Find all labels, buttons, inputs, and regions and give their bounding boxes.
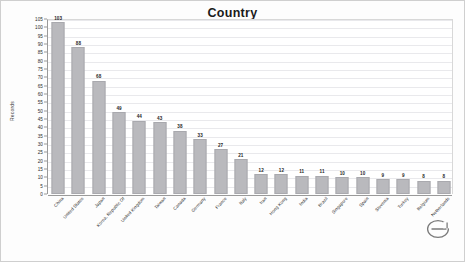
y-axis-tick-label: 60 — [38, 92, 43, 97]
x-axis-tick-label: Hong Kong — [269, 196, 288, 216]
x-axis-tick-label: Iran — [259, 196, 268, 205]
x-axis-tick-label: Netherlands — [430, 196, 451, 218]
bar-slot[interactable]: 68 — [89, 20, 109, 194]
bar[interactable] — [397, 179, 410, 194]
y-axis-tick-label: 100 — [35, 25, 43, 30]
bar-value-label: 43 — [157, 116, 162, 121]
bar[interactable] — [376, 179, 389, 194]
bar[interactable] — [72, 47, 85, 194]
bar-value-label: 12 — [279, 168, 284, 173]
x-axis-tick-label: Taiwan — [153, 196, 166, 210]
bar-slot[interactable]: 9 — [393, 20, 413, 194]
bar-value-label: 103 — [54, 16, 62, 21]
bar-value-label: 27 — [218, 143, 223, 148]
y-axis-tick-label: 65 — [38, 83, 43, 88]
bar-value-label: 12 — [258, 168, 263, 173]
y-axis-tick-label: 80 — [38, 58, 43, 63]
y-axis-tick-label: 35 — [38, 133, 43, 138]
y-axis-tick-label: 15 — [38, 167, 43, 172]
bar-slot[interactable]: 10 — [332, 20, 352, 194]
bar[interactable] — [194, 139, 207, 194]
bar-value-label: 11 — [299, 169, 304, 174]
elsevier-e-logo-icon — [425, 216, 451, 242]
bar-slot[interactable]: 27 — [210, 20, 230, 194]
bar-slot[interactable]: 44 — [129, 20, 149, 194]
y-axis-tick-label: 85 — [38, 50, 43, 55]
bar[interactable] — [255, 174, 268, 194]
bar[interactable] — [275, 174, 288, 194]
x-axis-tick-label: China — [53, 196, 65, 208]
bar-value-label: 38 — [177, 124, 182, 129]
y-axis-tick-label: 25 — [38, 150, 43, 155]
bar[interactable] — [234, 159, 247, 194]
x-axis-tick-label: France — [214, 196, 227, 210]
bar-slot[interactable]: 10 — [353, 20, 373, 194]
bar-value-label: 44 — [137, 114, 142, 119]
x-axis-tick-label: Brazil — [317, 196, 329, 208]
x-axis-tick-label: Japan — [93, 196, 105, 209]
bar-slot[interactable]: 33 — [190, 20, 210, 194]
bar[interactable] — [437, 181, 450, 194]
chart-title: Country — [0, 6, 465, 20]
bar-slot[interactable]: 8 — [413, 20, 433, 194]
bar-slot[interactable]: 11 — [312, 20, 332, 194]
x-axis-tick-label: Germany — [190, 196, 206, 213]
bar-value-label: 33 — [198, 133, 203, 138]
y-axis-tick-label: 5 — [40, 183, 43, 188]
x-axis-tick-label: Turkey — [397, 196, 410, 210]
bar[interactable] — [417, 181, 430, 194]
bar[interactable] — [336, 177, 349, 194]
bar-value-label: 10 — [360, 171, 365, 176]
x-axis-tick-label: India — [298, 196, 308, 207]
x-axis-tick-label: Singapore — [331, 196, 349, 215]
bar-slot[interactable]: 88 — [68, 20, 88, 194]
bar-chart: Country Records 051015202530354045505560… — [0, 0, 465, 262]
y-axis-tick-label: 70 — [38, 75, 43, 80]
bar-value-label: 11 — [320, 169, 325, 174]
bar-value-label: 68 — [96, 74, 101, 79]
y-axis-tick-label: 105 — [35, 17, 43, 22]
bar-slot[interactable]: 38 — [170, 20, 190, 194]
bar-slot[interactable]: 103 — [48, 20, 68, 194]
bar[interactable] — [295, 176, 308, 194]
bar-slot[interactable]: 8 — [434, 20, 454, 194]
y-axis-tick-labels: 0510152025303540455055606570758085909510… — [0, 19, 47, 194]
bar-value-label: 8 — [422, 174, 425, 179]
bar-value-label: 8 — [443, 174, 446, 179]
y-axis-tick-label: 20 — [38, 158, 43, 163]
y-axis-tick-label: 10 — [38, 175, 43, 180]
bars-layer: 1038868494443383327211212111110109988 — [48, 20, 452, 194]
bar-slot[interactable]: 49 — [109, 20, 129, 194]
bar-value-label: 21 — [238, 153, 243, 158]
bar[interactable] — [173, 131, 186, 194]
bar[interactable] — [214, 149, 227, 194]
bar-value-label: 49 — [116, 106, 121, 111]
bar-slot[interactable]: 9 — [373, 20, 393, 194]
bar[interactable] — [153, 122, 166, 194]
y-axis-tick-label: 0 — [40, 192, 43, 197]
x-axis-tick-label: United States — [63, 196, 86, 220]
bar-slot[interactable]: 11 — [292, 20, 312, 194]
bar-slot[interactable]: 21 — [231, 20, 251, 194]
x-axis-tick-label: Spain — [358, 196, 370, 208]
x-axis-tick-label: Slovenia — [374, 196, 390, 212]
bar-slot[interactable]: 12 — [271, 20, 291, 194]
y-axis-tick-label: 75 — [38, 67, 43, 72]
bar-value-label: 88 — [76, 41, 81, 46]
y-axis-tick-label: 50 — [38, 108, 43, 113]
y-axis-tick-label: 90 — [38, 42, 43, 47]
bar[interactable] — [316, 176, 329, 194]
bar[interactable] — [113, 112, 126, 194]
bar[interactable] — [356, 177, 369, 194]
bar[interactable] — [92, 81, 105, 194]
x-axis-tick-labels: ChinaUnited StatesJapanKorea, Republic O… — [47, 194, 453, 254]
x-axis-tick-label: Canada — [172, 196, 187, 211]
bar[interactable] — [133, 121, 146, 194]
bar-slot[interactable]: 43 — [150, 20, 170, 194]
bar-value-label: 10 — [340, 171, 345, 176]
y-axis-tick-label: 40 — [38, 125, 43, 130]
y-axis-tick-label: 95 — [38, 33, 43, 38]
plot-area: 1038868494443383327211212111110109988 — [47, 19, 453, 194]
bar-slot[interactable]: 12 — [251, 20, 271, 194]
bar[interactable] — [52, 22, 65, 194]
